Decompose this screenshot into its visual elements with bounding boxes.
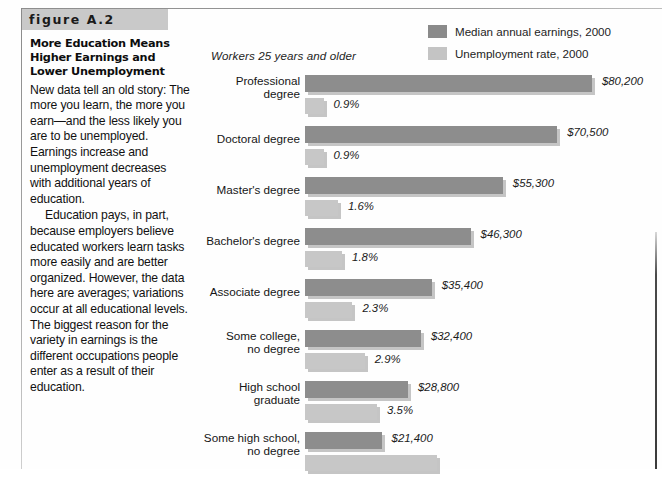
- unemployment-bar: [305, 455, 437, 471]
- unemployment-value-label: 1.8%: [352, 251, 378, 263]
- unemployment-value-label: 2.3%: [362, 302, 388, 314]
- legend-label-earnings: Median annual earnings, 2000: [455, 25, 611, 38]
- unemployment-value-label: 2.9%: [375, 353, 401, 365]
- chart-subtitle: Workers 25 years and older: [211, 49, 356, 62]
- chart-rows: Professional degree$80,2000.9%Doctoral d…: [200, 75, 662, 478]
- unemployment-bar: [305, 149, 324, 165]
- category-label: Doctoral degree: [150, 132, 300, 145]
- earnings-value-label: $32,400: [431, 330, 472, 342]
- bar-group: $35,4002.3%: [305, 279, 432, 318]
- bar-group: $55,3001.6%: [305, 177, 503, 216]
- unemployment-bar: [305, 200, 338, 216]
- unemployment-bar: [305, 98, 324, 114]
- legend-label-unemployment: Unemployment rate, 2000: [455, 47, 588, 60]
- chart-legend: Median annual earnings, 2000 Unemploymen…: [428, 23, 611, 67]
- chart-row: Associate degree$35,4002.3%: [200, 279, 662, 330]
- figure-number-label: figure A.2: [29, 12, 115, 27]
- earnings-bar: [305, 177, 503, 194]
- legend-swatch-unemployment-icon: [428, 47, 447, 60]
- unemployment-bar: [305, 251, 342, 267]
- earnings-value-label: $46,300: [481, 228, 522, 240]
- bar-group: $28,8003.5%: [305, 381, 408, 420]
- unemployment-value-label: 1.6%: [348, 200, 374, 212]
- category-label: Some high school, no degree: [150, 431, 300, 458]
- bar-group: $32,4002.9%: [305, 330, 421, 369]
- earnings-bar: [305, 75, 592, 92]
- earnings-value-label: $80,200: [602, 75, 643, 87]
- category-label: Professional degree: [150, 74, 300, 101]
- chart-row: Master's degree$55,3001.6%: [200, 177, 662, 228]
- chart-row: High school graduate$28,8003.5%: [200, 381, 662, 432]
- category-label: Associate degree: [150, 285, 300, 298]
- bar-group: $80,2000.9%: [305, 75, 592, 114]
- earnings-value-label: $35,400: [442, 279, 483, 291]
- earnings-value-label: $21,400: [392, 432, 433, 444]
- chart-row: Some college, no degree$32,4002.9%: [200, 330, 662, 381]
- earnings-value-label: $55,300: [513, 177, 554, 189]
- unemployment-value-label: 3.5%: [387, 404, 413, 416]
- category-label: High school graduate: [150, 380, 300, 407]
- figure-number-banner: figure A.2: [22, 9, 168, 30]
- chart-row: Some high school, no degree$21,400: [200, 432, 662, 478]
- legend-item-unemployment: Unemployment rate, 2000: [428, 45, 611, 62]
- earnings-bar: [305, 432, 382, 449]
- earnings-bar: [305, 126, 557, 143]
- bar-chart: Median annual earnings, 2000 Unemploymen…: [200, 9, 662, 469]
- bar-group: $21,400: [305, 432, 437, 471]
- bar-group: $70,5000.9%: [305, 126, 557, 165]
- category-label: Bachelor's degree: [150, 234, 300, 247]
- chart-row: Doctoral degree$70,5000.9%: [200, 126, 662, 177]
- earnings-bar: [305, 228, 471, 245]
- unemployment-value-label: 0.9%: [334, 98, 360, 110]
- legend-swatch-earnings-icon: [428, 25, 447, 38]
- earnings-value-label: $70,500: [567, 126, 608, 138]
- earnings-bar: [305, 330, 421, 347]
- category-label: Some college, no degree: [150, 329, 300, 356]
- earnings-bar: [305, 279, 432, 296]
- earnings-bar: [305, 381, 408, 398]
- chart-row: Professional degree$80,2000.9%: [200, 75, 662, 126]
- unemployment-value-label: 0.9%: [334, 149, 360, 161]
- earnings-value-label: $28,800: [418, 381, 459, 393]
- unemployment-bar: [305, 302, 352, 318]
- unemployment-bar: [305, 404, 377, 420]
- category-label: Master's degree: [150, 183, 300, 196]
- bar-group: $46,3001.8%: [305, 228, 471, 267]
- chart-row: Bachelor's degree$46,3001.8%: [200, 228, 662, 279]
- unemployment-bar: [305, 353, 365, 369]
- legend-item-earnings: Median annual earnings, 2000: [428, 23, 611, 40]
